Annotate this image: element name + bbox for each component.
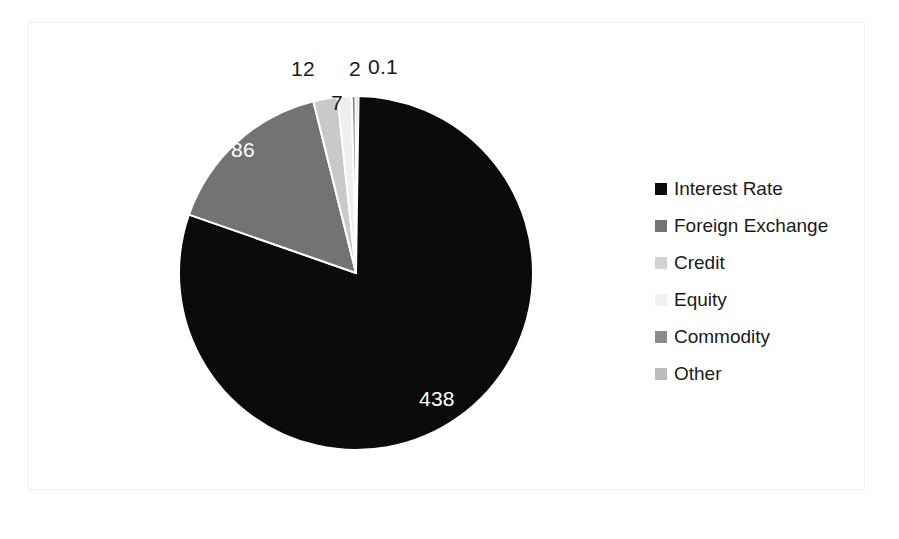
legend-item-label: Interest Rate xyxy=(674,179,783,198)
legend-swatch-icon xyxy=(655,257,667,269)
legend-item-label: Credit xyxy=(674,253,725,272)
chart-figure: 438 86 12 7 2 0.1 Interest Rate Foreign … xyxy=(0,0,899,539)
legend-item-label: Other xyxy=(674,364,722,383)
legend-item-other[interactable]: Other xyxy=(655,355,880,392)
slice-value-label-commodity: 2 xyxy=(349,58,361,79)
legend-item-credit[interactable]: Credit xyxy=(655,244,880,281)
legend-item-equity[interactable]: Equity xyxy=(655,281,880,318)
slice-value-label-interest-rate: 438 xyxy=(419,388,455,409)
legend-item-commodity[interactable]: Commodity xyxy=(655,318,880,355)
legend-swatch-icon xyxy=(655,294,667,306)
legend-swatch-icon xyxy=(655,183,667,195)
slice-value-label-foreign-exchange: 86 xyxy=(231,139,255,160)
legend-item-label: Foreign Exchange xyxy=(674,216,828,235)
legend-item-label: Equity xyxy=(674,290,727,309)
slice-value-label-other: 0.1 xyxy=(368,56,398,77)
legend-item-interest-rate[interactable]: Interest Rate xyxy=(655,170,880,207)
slice-value-label-equity: 7 xyxy=(331,92,343,113)
legend-item-label: Commodity xyxy=(674,327,770,346)
legend-swatch-icon xyxy=(655,331,667,343)
legend-swatch-icon xyxy=(655,368,667,380)
legend-item-foreign-exchange[interactable]: Foreign Exchange xyxy=(655,207,880,244)
chart-legend: Interest Rate Foreign Exchange Credit Eq… xyxy=(655,170,880,392)
legend-swatch-icon xyxy=(655,220,667,232)
slice-value-label-credit: 12 xyxy=(291,58,315,79)
